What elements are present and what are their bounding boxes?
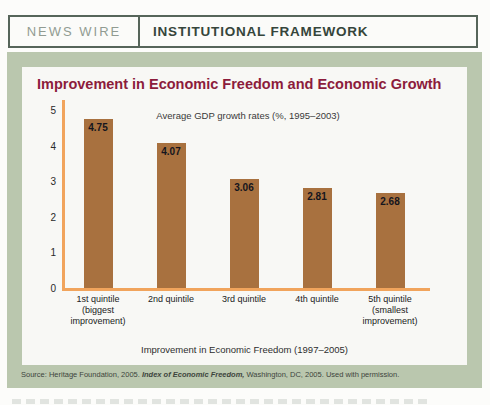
y-tick-label: 5 — [26, 104, 56, 118]
chart-title: Improvement in Economic Freedom and Econ… — [37, 76, 461, 93]
bar — [84, 119, 113, 288]
y-tick-label: 3 — [26, 175, 56, 189]
bar-value-label: 2.81 — [301, 191, 334, 202]
x-category-label: 5th quintile(smallestimprovement) — [345, 294, 435, 327]
y-axis-line — [62, 100, 65, 291]
bar-value-label: 3.06 — [228, 182, 261, 193]
chart-panel: Improvement in Economic Freedom and Econ… — [22, 67, 467, 365]
source-suffix: Washington, DC, 2005. Used with permissi… — [244, 370, 399, 379]
y-tick-label: 0 — [26, 282, 56, 296]
header-box: NEWS WIRE INSTITUTIONAL FRAMEWORK — [8, 15, 478, 48]
chart-subtitle: Average GDP growth rates (%, 1995–2003) — [88, 110, 408, 121]
y-tick-label: 1 — [26, 246, 56, 260]
bar-chart-plot: Improvement in Economic Freedom and Econ… — [22, 67, 467, 365]
figure-band: Improvement in Economic Freedom and Econ… — [7, 52, 482, 388]
header-kicker: NEWS WIRE — [10, 17, 140, 46]
y-tick-label: 2 — [26, 211, 56, 225]
bar-value-label: 4.07 — [155, 146, 188, 157]
source-work-title: Index of Economic Freedom, — [142, 370, 245, 379]
x-axis-title: Improvement in Economic Freedom (1997–20… — [22, 344, 467, 355]
y-tick-label: 4 — [26, 140, 56, 154]
cropped-text-hint — [12, 399, 432, 404]
source-prefix: Source: Heritage Foundation, 2005. — [21, 370, 142, 379]
bar — [230, 179, 259, 288]
bar — [157, 143, 186, 288]
x-axis-line — [62, 288, 430, 291]
bar-value-label: 4.75 — [82, 122, 115, 133]
bar-value-label: 2.68 — [374, 196, 407, 207]
source-line: Source: Heritage Foundation, 2005. Index… — [21, 370, 471, 379]
bar — [303, 188, 332, 288]
bar — [376, 193, 405, 288]
header-title: INSTITUTIONAL FRAMEWORK — [140, 24, 476, 39]
